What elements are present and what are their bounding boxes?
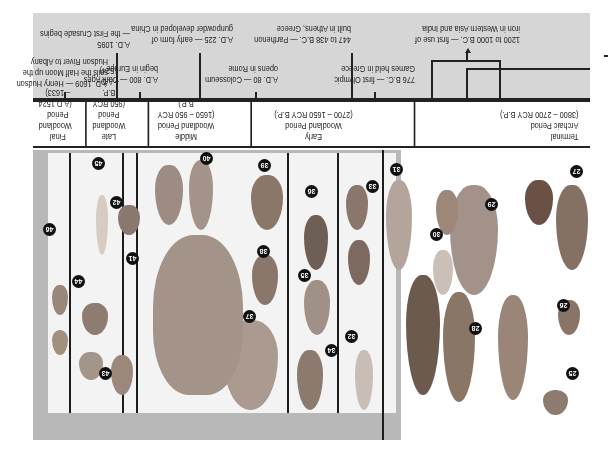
event-crusade: A.D. 1095 — the First Crusade begins: [40, 28, 130, 50]
divider-early-a: [337, 153, 339, 413]
event-olympic: 776 B.C. — first Olympic Games held in G…: [334, 63, 415, 85]
badge-39: 39: [258, 159, 271, 172]
badge-44: 44: [72, 275, 85, 288]
badge-37: 37: [243, 310, 256, 323]
badge-29: 29: [485, 198, 498, 211]
step-v1: [466, 68, 468, 98]
badge-32: 32: [345, 330, 358, 343]
badge-27: 27: [570, 165, 583, 178]
event-gunpowder: A.D. 225 — early form of gunpowder devel…: [131, 23, 233, 45]
period-row: Terminal Archaic Period (3800 – 2700 RCY…: [33, 100, 590, 148]
badge-46: 46: [43, 223, 56, 236]
period-middle-woodland: Middle Woodland Period (1650 – 950 RCY B…: [148, 102, 223, 146]
badge-45: 45: [92, 157, 105, 170]
step-h1: [431, 60, 501, 62]
badge-43: 43: [99, 367, 112, 380]
badge-42: 42: [110, 196, 123, 209]
event-colosseum: A.D. 80 — Colosseum opens in Rome: [205, 63, 278, 85]
divider-middle: [136, 153, 138, 413]
badge-41: 41: [126, 252, 139, 265]
badge-28: 28: [469, 322, 482, 335]
step-v2: [431, 60, 433, 98]
badge-36: 36: [305, 185, 318, 198]
divider-late-b: [69, 153, 71, 413]
badge-25: 25: [566, 367, 579, 380]
badge-26: 26: [557, 299, 570, 312]
badge-30: 30: [430, 228, 443, 241]
badge-35: 35: [298, 269, 311, 282]
dark-ages-tick: [139, 92, 141, 98]
event-parthenon: 447 to 438 B.C. — Parthenon built in Ath…: [254, 23, 351, 45]
iron-tick: [466, 52, 468, 60]
iron-arrow: [465, 48, 471, 53]
gunpowder-tick: [199, 53, 201, 98]
rotated-page: 1200 to 1000 B.C. — first use of iron in…: [0, 0, 608, 455]
parthenon-tick: [351, 53, 353, 98]
period-early-woodland: Early Woodland Period (2700 – 1650 RCY B…: [250, 102, 375, 146]
specimen-37b-shape: [153, 235, 243, 395]
olympic-tick: [374, 92, 376, 98]
period-late-woodland: Late Woodland Period (950 RCY B.P. – A.D…: [85, 102, 131, 146]
period-terminal-archaic: Terminal Archaic Period (3800 – 2700 RCY…: [414, 102, 590, 146]
colosseum-tick: [255, 92, 257, 98]
badge-33: 33: [366, 180, 379, 193]
badge-38: 38: [257, 245, 270, 258]
period-final-woodland: Final Woodland Period (A.D.1524 – 1633): [41, 102, 75, 146]
step-h2: [466, 68, 590, 70]
badge-34: 34: [325, 344, 338, 357]
divider-archaic: [382, 150, 384, 440]
badge-40: 40: [200, 152, 213, 165]
event-iron: 1200 to 1000 B.C. — first use of iron in…: [415, 23, 520, 45]
badge-31: 31: [390, 163, 403, 176]
timeline-step-box: [604, 55, 608, 57]
step-v3: [499, 60, 501, 98]
divider-early-b: [287, 153, 289, 413]
